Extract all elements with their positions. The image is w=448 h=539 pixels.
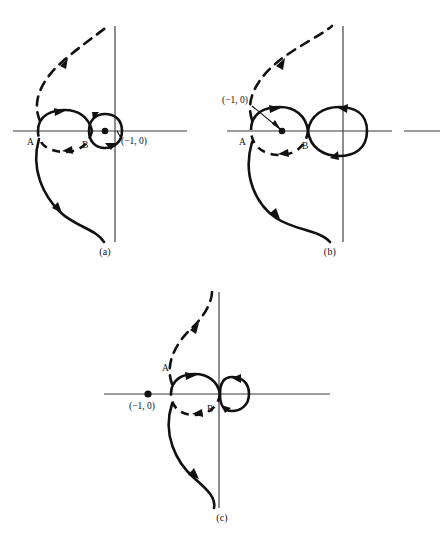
dashed-upper-branch-b	[250, 26, 332, 120]
dashed-upper-branch-c	[170, 292, 212, 384]
right-loop-upper-b	[308, 107, 367, 131]
left-loop-upper-c	[171, 374, 220, 394]
panel-c-plot: A B (−1, 0)	[104, 282, 340, 539]
caption-c: (c)	[104, 512, 340, 523]
left-loop-lower-arrow-b	[278, 149, 289, 157]
panel-a: A B (−1, 0)	[0, 18, 210, 268]
marked-point-leader-arrow-b	[272, 120, 281, 130]
panel-c: A B (−1, 0)	[104, 282, 340, 539]
marked-point-dot-c	[144, 390, 151, 397]
left-loop-upper-a	[38, 110, 92, 131]
solid-lower-branch-c	[169, 404, 215, 508]
right-loop-upper-arrow-c	[232, 374, 241, 383]
panel-b: A B (−1, 0)	[212, 18, 448, 268]
solid-lower-branch-b	[249, 142, 330, 242]
panel-b-plot: A B (−1, 0)	[212, 18, 448, 268]
label-marked-point-b: (−1, 0)	[222, 95, 248, 106]
left-loop-lower-b	[251, 130, 308, 155]
label-A-b: A	[239, 137, 246, 147]
caption-a: (a)	[0, 246, 210, 257]
label-marked-point-a: (−1, 0)	[121, 136, 147, 147]
label-A-a: A	[27, 137, 34, 147]
label-B-c: B	[207, 404, 213, 414]
right-loop-upper-c	[220, 377, 249, 394]
left-loop-upper-b	[251, 107, 308, 131]
label-B-a: B	[82, 140, 88, 150]
panel-a-plot: A B (−1, 0)	[0, 18, 210, 268]
label-B-b: B	[302, 141, 308, 151]
label-A-c: A	[162, 363, 169, 373]
caption-b: (b)	[212, 246, 448, 257]
figure-canvas: A B (−1, 0) (a)	[0, 0, 448, 539]
label-marked-point-c: (−1, 0)	[129, 401, 155, 412]
marked-point-dot-a	[102, 128, 109, 135]
dashed-upper-branch-a	[37, 26, 108, 121]
solid-lower-branch-a	[36, 139, 104, 242]
